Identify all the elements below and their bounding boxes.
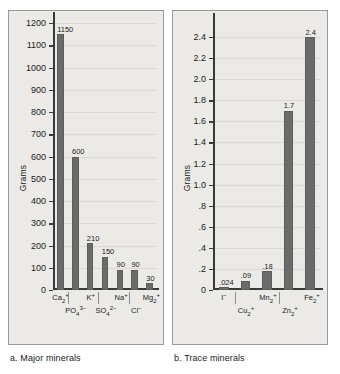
x-axis-category-label: Cl− (131, 307, 142, 315)
panel-trace-minerals: Grams 2.42.22.01.81.61.41.21.0.8.6.4.20 … (172, 10, 328, 374)
panel-major-minerals: Grams 1200110010009008007006005004003002… (8, 10, 164, 374)
bar (57, 34, 64, 290)
x-axis-category-label: Fe2+ (304, 294, 320, 302)
x-axis-separator (129, 292, 130, 304)
y-axis-tick-label: .4 (198, 243, 206, 252)
bar-value-label: 90 (131, 261, 139, 269)
y-axis-tick-label: 1.4 (193, 138, 206, 147)
bar-value-label: 30 (146, 275, 154, 283)
x-axis-labels-major: Ca2+PO43−K+SO42−Na+Cl−Mg2+ (53, 290, 159, 342)
y-axis-tick-label: 300 (31, 219, 46, 228)
bar (262, 271, 272, 290)
y-axis-tick-label: 0 (201, 286, 206, 295)
y-axis-tick-label: 1100 (27, 41, 46, 50)
y-axis-tick-label: 1200 (26, 19, 46, 28)
x-axis-separator (68, 292, 69, 304)
y-axis-tick-label: 1000 (26, 63, 46, 72)
x-axis-category-label: SO42− (95, 307, 116, 315)
bar (102, 257, 109, 290)
y-axis-tick-label: 500 (31, 174, 46, 183)
x-axis-separator (279, 292, 280, 304)
x-axis-category-label: Cu2+ (238, 307, 254, 315)
x-axis-category-label: K+ (87, 294, 96, 302)
x-axis-category-label: Na+ (115, 294, 128, 302)
y-axis-tick-label: 0 (41, 286, 46, 295)
bar (241, 281, 251, 290)
bar-value-label: 2.4 (305, 29, 315, 37)
minerals-figure: Grams 1200110010009008007006005004003002… (0, 0, 340, 374)
x-axis-category-label: Zn2+ (282, 307, 298, 315)
x-axis-separator (235, 292, 236, 304)
y-axis-tick-label: 2.2 (193, 54, 206, 63)
y-axis-tick-label: .2 (198, 264, 206, 273)
bar (305, 37, 315, 290)
bar-value-label: 600 (72, 148, 85, 156)
x-axis-category-label: I− (221, 294, 227, 302)
x-axis-category-label: Mg2+ (143, 294, 160, 302)
y-axis-tick-label: 1.6 (193, 117, 206, 126)
chart-panel-major: Grams 1200110010009008007006005004003002… (8, 10, 164, 345)
bar (284, 111, 294, 290)
caption-trace: b. Trace minerals (172, 345, 328, 363)
bar-value-label: 1150 (57, 26, 73, 34)
y-axis-tick-label: .8 (198, 201, 206, 210)
chart-panel-trace: Grams 2.42.22.01.81.61.41.21.0.8.6.4.20 … (172, 10, 328, 345)
bar-value-label: 210 (87, 235, 100, 243)
y-axis-tick-label: 1.8 (193, 96, 206, 105)
bar-value-label: .024 (219, 279, 234, 287)
bar (72, 157, 79, 291)
x-axis-separator (98, 292, 99, 304)
y-axis-tick-label: 1.2 (193, 159, 206, 168)
caption-major: a. Major minerals (8, 345, 164, 363)
bar-value-label: 150 (102, 248, 115, 256)
y-axis-tick-label: 1.0 (193, 180, 206, 189)
y-axis-title-major: Grams (18, 164, 28, 191)
y-axis-tick-label: 600 (31, 152, 46, 161)
y-axis-tick-label: 2.0 (193, 75, 206, 84)
x-axis-category-label: PO43− (65, 307, 86, 315)
bar-series-trace: .024.09.181.72.4 (213, 37, 321, 290)
plot-area-major: Grams 1200110010009008007006005004003002… (9, 11, 163, 344)
bar-value-label: .09 (241, 272, 251, 280)
y-axis-tick-label: 2.4 (193, 33, 206, 42)
chart-box-major: 1200110010009008007006005004003002001000… (53, 23, 157, 290)
bar-value-label: .18 (262, 263, 272, 271)
y-axis-tick-label: 200 (31, 241, 46, 250)
y-axis-title-trace: Grams (182, 164, 192, 191)
bar (146, 283, 153, 290)
y-axis-tick-label: 800 (31, 108, 46, 117)
y-axis-tick-label: .6 (198, 222, 206, 231)
plot-area-trace: Grams 2.42.22.01.81.61.41.21.0.8.6.4.20 … (173, 11, 327, 344)
bar (87, 243, 94, 290)
bar-value-label: 90 (117, 261, 125, 269)
y-axis-tick-label: 100 (31, 263, 46, 272)
chart-box-trace: 2.42.22.01.81.61.41.21.0.8.6.4.20 .024.0… (213, 37, 321, 290)
bar-value-label: 1.7 (284, 102, 294, 110)
bar (131, 270, 138, 290)
y-axis-tick-label: 400 (31, 197, 46, 206)
x-axis-labels-trace: I−Cu2+Mn2+Zn2+Fe2+ (213, 290, 323, 342)
y-axis-tick-label: 700 (31, 130, 46, 139)
y-axis-tick-label: 900 (31, 85, 46, 94)
x-axis-category-label: Mn2+ (259, 294, 276, 302)
bar-series-major: 1150600210150909030 (53, 23, 157, 290)
bar (117, 270, 124, 290)
x-axis-category-label: Ca2+ (52, 294, 68, 302)
